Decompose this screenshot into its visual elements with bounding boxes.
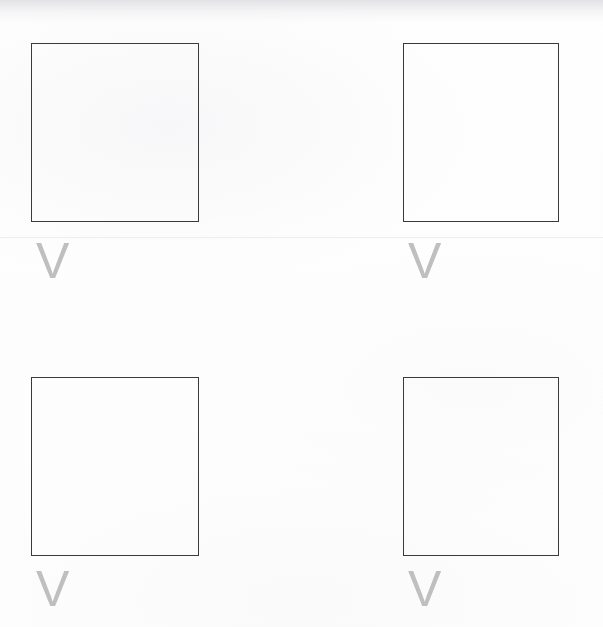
v-mark-icon: V bbox=[408, 236, 441, 286]
checkbox-square[interactable] bbox=[31, 43, 199, 222]
checkbox-square[interactable] bbox=[403, 43, 559, 222]
v-mark-icon: V bbox=[408, 564, 441, 614]
v-mark-icon: V bbox=[36, 564, 69, 614]
scanned-page: VVVV bbox=[0, 0, 603, 627]
checkbox-square[interactable] bbox=[403, 377, 559, 556]
v-mark-icon: V bbox=[36, 236, 69, 286]
checkbox-square[interactable] bbox=[31, 377, 199, 556]
scan-top-shading bbox=[0, 0, 603, 30]
horizontal-divider bbox=[0, 237, 603, 238]
